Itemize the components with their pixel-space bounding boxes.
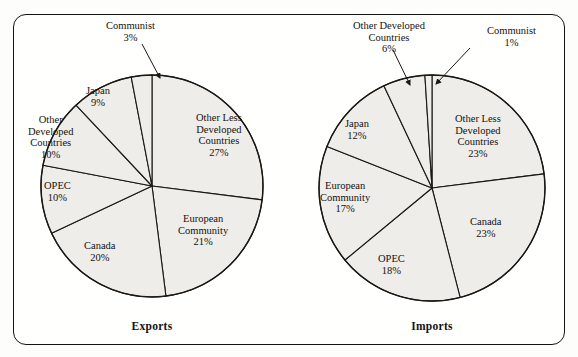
pie-label-opec: OPEC18% bbox=[378, 253, 405, 276]
pie-label-line: 6% bbox=[353, 43, 425, 55]
pie-label-line: Community bbox=[178, 225, 228, 237]
pie-label-line: 20% bbox=[84, 252, 116, 264]
pie-label-line: European bbox=[178, 213, 228, 225]
pie-label-line: Developed bbox=[196, 124, 242, 136]
pie-label-other-developed-countries: OtherDevelopedCountries10% bbox=[28, 114, 73, 160]
pie-label-other-less-developed-countries: Other LessDevelopedCountries23% bbox=[455, 113, 501, 159]
chart-title-exports: Exports bbox=[92, 320, 212, 332]
pie-label-line: Other bbox=[28, 114, 73, 126]
pie-label-opec: OPEC10% bbox=[44, 180, 71, 203]
pie-label-line: Japan bbox=[345, 118, 369, 130]
pie-label-line: 27% bbox=[196, 147, 242, 159]
pie-label-line: 1% bbox=[487, 37, 536, 49]
pie-label-line: 21% bbox=[178, 236, 228, 248]
pie-label-line: 9% bbox=[86, 97, 110, 109]
pie-label-line: European bbox=[320, 180, 370, 192]
pie-label-japan: Japan12% bbox=[345, 118, 369, 141]
pie-label-line: 10% bbox=[28, 149, 73, 161]
pie-label-line: Developed bbox=[455, 125, 501, 137]
figure-frame bbox=[13, 14, 565, 345]
chart-title-imports: Imports bbox=[372, 320, 492, 332]
pie-label-line: Other Less bbox=[455, 113, 501, 125]
pie-label-line: Other Developed bbox=[353, 20, 425, 32]
pie-label-line: Developed bbox=[28, 126, 73, 138]
pie-label-european-community: EuropeanCommunity21% bbox=[178, 213, 228, 248]
pie-label-line: 3% bbox=[106, 32, 155, 44]
pie-label-canada: Canada20% bbox=[84, 240, 116, 263]
pie-label-communist: Communist3% bbox=[106, 20, 155, 43]
pie-label-line: 18% bbox=[378, 265, 405, 277]
pie-label-line: Countries bbox=[353, 32, 425, 44]
pie-label-canada: Canada23% bbox=[470, 216, 502, 239]
figure-page: Other LessDevelopedCountries27%EuropeanC… bbox=[0, 0, 578, 357]
pie-label-line: Countries bbox=[196, 135, 242, 147]
pie-label-line: Other Less bbox=[196, 112, 242, 124]
pie-label-line: 23% bbox=[470, 228, 502, 240]
pie-label-japan: Japan9% bbox=[86, 85, 110, 108]
pie-label-line: Communist bbox=[106, 20, 155, 32]
pie-label-other-developed-countries: Other DevelopedCountries6% bbox=[353, 20, 425, 55]
pie-label-line: 23% bbox=[455, 148, 501, 160]
pie-label-line: OPEC bbox=[44, 180, 71, 192]
pie-label-line: 12% bbox=[345, 130, 369, 142]
pie-label-line: Communist bbox=[487, 25, 536, 37]
pie-label-line: Community bbox=[320, 192, 370, 204]
pie-label-line: OPEC bbox=[378, 253, 405, 265]
pie-label-line: Countries bbox=[28, 137, 73, 149]
pie-label-european-community: EuropeanCommunity17% bbox=[320, 180, 370, 215]
pie-label-line: 10% bbox=[44, 192, 71, 204]
pie-label-line: Japan bbox=[86, 85, 110, 97]
pie-label-other-less-developed-countries: Other LessDevelopedCountries27% bbox=[196, 112, 242, 158]
pie-label-line: Canada bbox=[470, 216, 502, 228]
pie-label-communist: Communist1% bbox=[487, 25, 536, 48]
cut-off-caption bbox=[10, 0, 568, 3]
pie-label-line: Canada bbox=[84, 240, 116, 252]
pie-label-line: Countries bbox=[455, 136, 501, 148]
pie-label-line: 17% bbox=[320, 203, 370, 215]
